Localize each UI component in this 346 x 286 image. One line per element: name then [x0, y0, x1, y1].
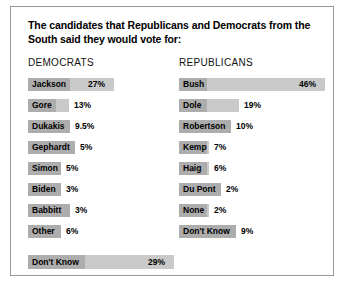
- bar-value-label: 6%: [66, 225, 78, 238]
- bar-row: Babbitt3%: [28, 204, 174, 217]
- bar: Haig: [179, 162, 209, 175]
- bar: Biden: [28, 183, 61, 196]
- democrats-column-header: DEMOCRATS: [28, 57, 174, 69]
- bar-category-label: Other: [28, 225, 61, 238]
- bar-value-label: 27%: [88, 78, 105, 91]
- bar-category-label: Haig: [179, 162, 207, 175]
- bar: Don't Know: [179, 225, 236, 238]
- bar-row: Biden3%: [28, 183, 174, 196]
- bar-category-label: None: [179, 204, 207, 217]
- bar-value-label: 6%: [214, 162, 226, 175]
- bar-value-label: 5%: [66, 162, 78, 175]
- bar-category-label: Robertson: [179, 120, 231, 133]
- bar-category-label: Jackson: [28, 78, 70, 91]
- bar-category-label: Dukakis: [28, 120, 70, 133]
- bar-row: Jackson27%: [28, 78, 174, 91]
- bar-row: Simon5%: [28, 162, 174, 175]
- bar: Gore: [28, 99, 69, 112]
- bar-value-label: 3%: [66, 183, 78, 196]
- bar-row: Other6%: [28, 225, 174, 238]
- bar-value-label: 46%: [299, 78, 316, 91]
- chart-title: The candidates that Republicans and Demo…: [28, 19, 318, 46]
- bar-value-label: 9.5%: [75, 120, 94, 133]
- chart-figure: The candidates that Republicans and Demo…: [10, 6, 334, 276]
- bar: Du Pont: [179, 183, 221, 196]
- bar-value-label: 19%: [244, 99, 261, 112]
- bar-row: Dole19%: [179, 99, 325, 112]
- bar: Gephardt: [28, 141, 75, 154]
- bar-value-label: 29%: [148, 255, 165, 269]
- bar-row: Haig6%: [179, 162, 325, 175]
- bar-value-label: 13%: [74, 99, 91, 112]
- bar: Dukakis: [28, 120, 70, 133]
- bar: Kemp: [179, 141, 209, 154]
- bar-row: Bush46%: [179, 78, 325, 91]
- republicans-column-header: REPUBLICANS: [179, 57, 325, 69]
- bar-category-label: Du Pont: [179, 183, 221, 196]
- bar-value-label: 9%: [241, 225, 253, 238]
- bar-category-label: Gephardt: [28, 141, 75, 154]
- bar: Babbitt: [28, 204, 70, 217]
- bar-value-label: 2%: [226, 183, 238, 196]
- democrats-dont-know-row: Don't Know29%: [28, 255, 174, 269]
- bar: Other: [28, 225, 61, 238]
- bar-row: None2%: [179, 204, 325, 217]
- bar: Dole: [179, 99, 239, 112]
- bar-category-label: Don't Know: [28, 255, 85, 269]
- bar-row: Robertson10%: [179, 120, 325, 133]
- bar-category-label: Don't Know: [179, 225, 236, 238]
- democrats-column: DEMOCRATS Jackson27%Gore13%Dukakis9.5%Ge…: [28, 57, 174, 246]
- bar-category-label: Bush: [179, 78, 207, 91]
- bar-category-label: Simon: [28, 162, 61, 175]
- bar-row: Kemp7%: [179, 141, 325, 154]
- bar-value-label: 5%: [80, 141, 92, 154]
- bar: Simon: [28, 162, 61, 175]
- bar-row: Gephardt5%: [28, 141, 174, 154]
- bar-category-label: Dole: [179, 99, 207, 112]
- bar-category-label: Babbitt: [28, 204, 70, 217]
- bar-category-label: Kemp: [179, 141, 207, 154]
- republicans-column: REPUBLICANS Bush46%Dole19%Robertson10%Ke…: [179, 57, 325, 246]
- bar-category-label: Gore: [28, 99, 56, 112]
- bar-row: Don't Know9%: [179, 225, 325, 238]
- bar: Robertson: [179, 120, 231, 133]
- bar-row: Du Pont2%: [179, 183, 325, 196]
- bar-value-label: 10%: [236, 120, 253, 133]
- bar-row: Dukakis9.5%: [28, 120, 174, 133]
- bar-value-label: 3%: [75, 204, 87, 217]
- bar-category-label: Biden: [28, 183, 61, 196]
- bar-value-label: 2%: [214, 204, 226, 217]
- bar-row: Gore13%: [28, 99, 174, 112]
- bar-value-label: 7%: [214, 141, 226, 154]
- bar: None: [179, 204, 209, 217]
